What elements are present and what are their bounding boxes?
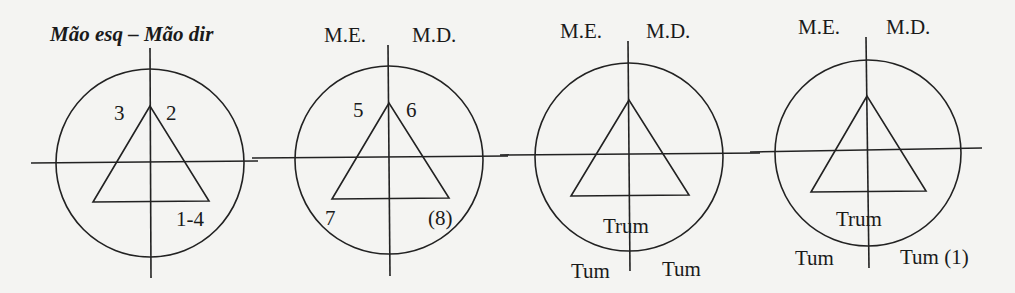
base-right-label: 1-4 bbox=[176, 207, 204, 231]
diagram-3: M.E. M.D. Trum Tum Tum bbox=[500, 19, 760, 283]
apex-right-label: 6 bbox=[406, 98, 417, 122]
header-left-hand: M.E. bbox=[560, 19, 602, 43]
header-right-hand: M.D. bbox=[886, 15, 930, 39]
base-right-label: (8) bbox=[428, 206, 453, 230]
bottom-right-label: Tum (1) bbox=[900, 245, 969, 269]
diagram-2: M.E. M.D. 5 6 7 (8) bbox=[252, 23, 508, 276]
bottom-right-label: Tum bbox=[662, 257, 701, 281]
horizontal-axis bbox=[750, 148, 982, 152]
horizontal-axis bbox=[31, 161, 258, 163]
below-center-label: Trum bbox=[603, 214, 649, 238]
header-left-hand: M.E. bbox=[324, 23, 366, 47]
horizontal-axis bbox=[500, 153, 760, 155]
vertical-axis bbox=[866, 37, 869, 268]
apex-left-label: 3 bbox=[114, 101, 125, 125]
header-right-hand: M.D. bbox=[412, 23, 456, 47]
horizontal-axis bbox=[252, 156, 508, 158]
below-center-label: Trum bbox=[836, 207, 882, 231]
header-left-hand: M.E. bbox=[798, 15, 840, 39]
conducting-patterns-figure: Mão esq – Mão dir 3 2 1-4 M.E. M.D. 5 6 … bbox=[0, 0, 1015, 293]
vertical-axis bbox=[150, 48, 151, 278]
base-left-label: 7 bbox=[325, 206, 336, 230]
bottom-left-label: Tum bbox=[795, 246, 834, 270]
header-right-hand: M.D. bbox=[646, 19, 690, 43]
apex-right-label: 2 bbox=[166, 101, 177, 125]
diagram-4: M.E. M.D. Trum Tum Tum (1) bbox=[750, 15, 982, 270]
diagram-1: 3 2 1-4 bbox=[31, 48, 258, 278]
triangle-beat-pattern bbox=[332, 103, 449, 199]
vertical-axis bbox=[388, 45, 390, 276]
apex-left-label: 5 bbox=[353, 98, 364, 122]
figure-title: Mão esq – Mão dir bbox=[49, 22, 214, 46]
bottom-left-label: Tum bbox=[571, 259, 610, 283]
